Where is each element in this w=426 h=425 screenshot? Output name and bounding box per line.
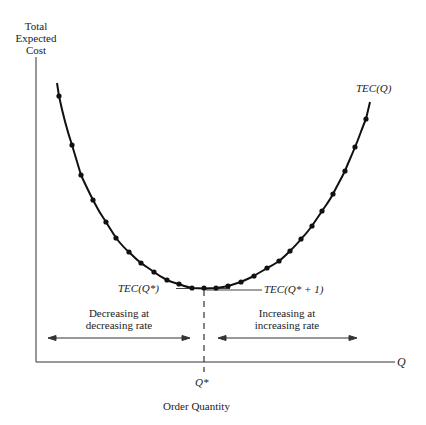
left-region-label: Decreasing at decreasing rate	[64, 307, 174, 331]
data-point	[309, 223, 314, 228]
x-axis-title: Order Quantity	[163, 400, 230, 412]
y-axis-label: Total Expected Cost	[12, 20, 60, 56]
left-region-arrow	[48, 336, 190, 341]
data-point	[201, 285, 206, 290]
data-point	[78, 172, 83, 177]
left-region-line2: decreasing rate	[64, 319, 174, 331]
data-point	[176, 281, 181, 286]
y-axis-label-line2: Expected	[12, 32, 60, 44]
data-point	[151, 269, 156, 274]
data-point	[276, 258, 281, 263]
data-point	[126, 249, 131, 254]
right-region-line1: Increasing at	[232, 307, 342, 319]
left-region-line1: Decreasing at	[64, 307, 174, 319]
q-star-tick-label: Q*	[195, 376, 208, 388]
data-point	[138, 260, 143, 265]
data-point	[213, 285, 218, 290]
cost-curve-diagram	[0, 0, 426, 425]
y-axis-label-line3: Cost	[12, 44, 60, 56]
data-point	[342, 168, 347, 173]
tec-curve	[57, 83, 370, 289]
data-point	[103, 219, 108, 224]
data-point	[352, 144, 357, 149]
data-point	[90, 197, 95, 202]
data-point	[113, 235, 118, 240]
right-region-label: Increasing at increasing rate	[232, 307, 342, 331]
data-point	[264, 265, 269, 270]
data-point	[164, 277, 169, 282]
data-point	[330, 191, 335, 196]
data-point	[298, 236, 303, 241]
curve-label: TEC(Q)	[356, 82, 391, 94]
right-region-arrow	[218, 336, 357, 341]
y-axis-label-line1: Total	[12, 20, 60, 32]
tec-qstar-label: TEC(Q*)	[118, 282, 159, 294]
right-region-line2: increasing rate	[232, 319, 342, 331]
x-axis-symbol: Q	[397, 356, 406, 368]
data-point	[287, 248, 292, 253]
data-point	[189, 285, 194, 290]
data-point	[251, 273, 256, 278]
data-point	[363, 116, 368, 121]
data-point	[56, 93, 61, 98]
tec-qstar-plus1-label: TEC(Q* + 1)	[264, 283, 323, 295]
data-point	[238, 279, 243, 284]
data-point	[225, 283, 230, 288]
data-point	[319, 208, 324, 213]
data-points	[56, 93, 368, 290]
data-point	[69, 142, 74, 147]
